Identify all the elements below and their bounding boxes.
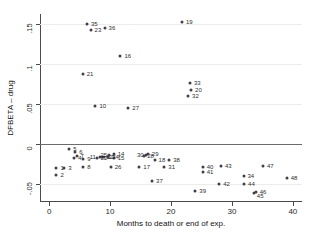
- data-point: [219, 164, 222, 167]
- data-point-label: 18: [159, 157, 166, 163]
- data-point-label: 46: [260, 189, 267, 195]
- data-point: [103, 27, 106, 30]
- x-axis-tick-label: 40: [288, 207, 297, 216]
- data-point: [243, 182, 246, 185]
- data-point: [285, 177, 288, 180]
- data-point-label: 10: [99, 103, 106, 109]
- x-axis-tick-label: 30: [227, 207, 236, 216]
- data-point: [75, 154, 78, 157]
- data-point: [81, 73, 84, 76]
- data-point-label: 31: [168, 164, 175, 170]
- data-point-label: 47: [267, 163, 274, 169]
- data-point-label: 35: [91, 21, 98, 27]
- data-point-label: 20: [195, 87, 202, 93]
- gridline-y: [40, 64, 302, 65]
- gridline-y: [40, 184, 302, 185]
- y-axis-title: DFBETA – drug: [4, 14, 16, 202]
- x-axis-tick-label: 0: [47, 207, 51, 216]
- y-axis-tick-label: -.05: [25, 182, 34, 195]
- data-point-label: 2: [60, 172, 63, 178]
- x-axis-tick: [232, 202, 233, 206]
- data-point-label: 16: [124, 53, 131, 59]
- data-point: [218, 183, 221, 186]
- plot-area: 1234567891011121314151617181920212223242…: [40, 14, 302, 202]
- data-point-label: 24: [112, 154, 119, 160]
- data-point: [119, 55, 122, 58]
- x-axis-tick: [171, 202, 172, 206]
- data-point-label: 23: [95, 27, 102, 33]
- x-axis-title: Months to death or end of exp.: [40, 219, 302, 228]
- data-point-label: 25: [100, 152, 107, 158]
- data-point: [188, 81, 191, 84]
- data-point: [82, 166, 85, 169]
- data-point: [63, 166, 66, 169]
- data-point: [187, 95, 190, 98]
- data-point: [163, 165, 166, 168]
- scatter-chart: DFBETA – drug -.050.05.1.15 123456789101…: [0, 0, 317, 246]
- x-axis-tick-label: 20: [167, 207, 176, 216]
- data-point: [95, 157, 98, 160]
- data-point: [109, 165, 112, 168]
- data-point-label: 8: [87, 164, 90, 170]
- data-point: [94, 104, 97, 107]
- data-point: [89, 28, 92, 31]
- data-point: [242, 175, 245, 178]
- data-point: [194, 190, 197, 193]
- data-point: [201, 166, 204, 169]
- data-point-label: 29: [152, 151, 159, 157]
- data-point-label: 48: [291, 175, 298, 181]
- data-point-label: 30: [137, 152, 144, 158]
- data-point: [127, 107, 130, 110]
- data-point-label: 41: [207, 169, 214, 175]
- gridline-y: [40, 24, 302, 25]
- data-point: [180, 21, 183, 24]
- y-axis-tick-label: .15: [25, 23, 34, 33]
- zero-reference-line: [40, 144, 302, 145]
- y-axis-tick-label: 0: [25, 146, 34, 150]
- data-point-label: 38: [173, 157, 180, 163]
- data-point: [82, 158, 85, 161]
- data-point-label: 27: [132, 105, 139, 111]
- data-point-label: 3: [68, 165, 71, 171]
- data-point-label: 19: [186, 19, 193, 25]
- data-point-label: 39: [199, 188, 206, 194]
- gridline-y: [40, 104, 302, 105]
- data-point-label: 42: [223, 181, 230, 187]
- data-point-label: 44: [248, 181, 255, 187]
- data-point-label: 34: [248, 173, 255, 179]
- y-axis-tick-label: .1: [25, 65, 34, 71]
- y-axis-title-text: DFBETA – drug: [6, 80, 15, 135]
- data-point-label: 33: [194, 80, 201, 86]
- data-point-label: 37: [156, 178, 163, 184]
- data-point: [138, 166, 141, 169]
- data-point: [262, 165, 265, 168]
- x-axis-tick: [293, 202, 294, 206]
- y-axis-tick-label: .05: [25, 103, 34, 113]
- data-point: [254, 190, 257, 193]
- data-point-label: 43: [225, 163, 232, 169]
- data-point: [85, 23, 88, 26]
- data-point: [168, 159, 171, 162]
- data-point: [108, 153, 111, 156]
- data-point-label: 32: [192, 93, 199, 99]
- data-point: [55, 166, 58, 169]
- data-point-label: 26: [115, 164, 122, 170]
- data-point: [55, 173, 58, 176]
- x-axis-tick-label: 10: [106, 207, 115, 216]
- data-point-label: 17: [143, 164, 150, 170]
- data-point-label: 21: [87, 71, 94, 77]
- data-point: [190, 88, 193, 91]
- data-point: [68, 148, 71, 151]
- x-axis-tick: [49, 202, 50, 206]
- x-axis-tick: [110, 202, 111, 206]
- data-point: [151, 180, 154, 183]
- data-point: [145, 154, 148, 157]
- data-point-label: 36: [109, 25, 116, 31]
- data-point: [201, 171, 204, 174]
